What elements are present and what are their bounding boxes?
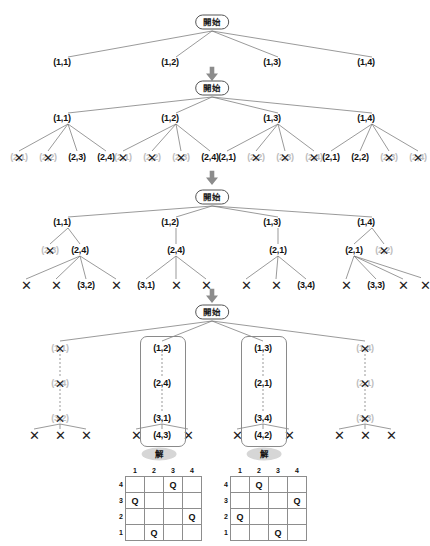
board-right-cell-r4c1 (231, 477, 250, 493)
board-left-cell-r2c2 (145, 509, 164, 525)
board-right-col-header-4: 4 (288, 464, 307, 477)
board-left-row: 1Q (113, 525, 202, 541)
board-left-cell-r1c1 (126, 525, 145, 541)
board-left-col-header-2: 2 (145, 464, 164, 477)
stage4-branch3-leaf-dead-2: ✕ (386, 429, 397, 442)
stage2-level2-node-2-0: (2,1) (218, 153, 236, 162)
stage3-leaf-dead-2-0: ✕ (241, 279, 252, 292)
stage3-leaf-node-3-1: (3,3) (367, 281, 385, 290)
board-left-caption: 解 (142, 448, 177, 461)
board-left-row-header-1: 1 (113, 525, 126, 541)
board-right-col-header-1: 1 (231, 464, 250, 477)
stage3-leaf-dead-1-1: ✕ (171, 279, 182, 292)
stage3-level1-node-0: (1,1) (53, 218, 71, 227)
stage2-level2-node-1-2-pruned: (2,3)✕ (172, 153, 190, 162)
stage3-leaf-dead-0-1: ✕ (51, 279, 62, 292)
board-left-corner (113, 464, 126, 477)
board-right-row: 3Q (218, 493, 307, 509)
stage1-level1-node-0: (1,1) (53, 58, 71, 67)
stage4-branch0-leaf-dead-1: ✕ (55, 429, 66, 442)
board-right-col-header-3: 3 (269, 464, 288, 477)
board-left-row: 3Q (113, 493, 202, 509)
stage3-leaf-node-0-2: (3,2) (77, 281, 95, 290)
board-right-queen-cell-r4c2: Q (250, 477, 269, 493)
stage4-branch0-chain-node-1-pruned: (2,4)✕ (51, 379, 69, 388)
stage2-level2-node-3-0: (2,1) (322, 153, 340, 162)
stage2-level1-node-3: (1,4) (357, 114, 375, 123)
stage3-leaf-dead-3-2: ✕ (398, 279, 409, 292)
start-node-3: 開始 (195, 190, 229, 205)
board-right-queen-cell-r2c1: Q (231, 509, 250, 525)
board-left-row: 4Q (113, 477, 202, 493)
stage3-leaf-node-1-0: (3,1) (137, 281, 155, 290)
stage4-branch3-leaf-dead-1: ✕ (360, 429, 371, 442)
board-left-row: 2Q (113, 509, 202, 525)
stage2-level2-node-3-1: (2,2) (351, 153, 369, 162)
stage3-leaf-dead-2-1: ✕ (271, 279, 282, 292)
stage2-level2-node-3-2-pruned: (2,3)✕ (380, 153, 398, 162)
board-right-queen-cell-r3c4: Q (288, 493, 307, 509)
stage3-level2-node-2-0: (2,1) (269, 246, 287, 255)
board-left: 12344Q3Q2Q1Q (113, 464, 202, 541)
stage2-level1-node-1: (1,2) (161, 114, 179, 123)
board-left-queen-cell-r4c3: Q (164, 477, 183, 493)
board-right-cell-r4c3 (269, 477, 288, 493)
board-right-row-header-4: 4 (218, 477, 231, 493)
stage2-level2-node-2-2-pruned: (2,3)✕ (276, 153, 294, 162)
board-left-col-header-1: 1 (126, 464, 145, 477)
board-right-col-header-2: 2 (250, 464, 269, 477)
stage1-level1-node-3: (1,4) (357, 58, 375, 67)
stage4-branch3-chain-node-2-pruned: (3,3)✕ (356, 414, 374, 423)
board-right-cell-r3c1 (231, 493, 250, 509)
board-left-cell-r4c4 (183, 477, 202, 493)
board-right-row-header-2: 2 (218, 509, 231, 525)
board-left-queen-cell-r3c1: Q (126, 493, 145, 509)
stage3-level1-node-2: (1,3) (263, 218, 281, 227)
stage4-branch3-chain-node-1-pruned: (2,1)✕ (356, 379, 374, 388)
stage3-level2-node-0-1: (2,4) (71, 246, 89, 255)
board-right-row-header-3: 3 (218, 493, 231, 509)
stage2-level2-node-2-1-pruned: (2,2)✕ (247, 153, 265, 162)
board-right-corner (218, 464, 231, 477)
stage2-level2-node-1-3: (2,4) (201, 153, 219, 162)
stage2-level2-node-0-0-pruned: (2,1)✕ (10, 153, 28, 162)
stage3-level2-node-3-1-pruned: (2,2)✕ (375, 246, 393, 255)
board-right-cell-r1c1 (231, 525, 250, 541)
stage2-level2-node-1-0-pruned: (2,1)✕ (114, 153, 132, 162)
stage2-level2-node-2-3-pruned: (2,4)✕ (305, 153, 323, 162)
stage-transition-arrow-2 (206, 171, 219, 190)
board-left-cell-r4c2 (145, 477, 164, 493)
board-right-cell-r4c4 (288, 477, 307, 493)
stage4-branch0-chain-node-0-pruned: (1,1)✕ (51, 344, 69, 353)
stage2-level2-node-0-1-pruned: (2,2)✕ (39, 153, 57, 162)
board-left-cell-r2c3 (164, 509, 183, 525)
board-left-cell-r1c3 (164, 525, 183, 541)
board-right-row: 2Q (218, 509, 307, 525)
stage2-level2-node-1-1-pruned: (2,2)✕ (143, 153, 161, 162)
board-right-cell-r2c3 (269, 509, 288, 525)
board-right-cell-r1c2 (250, 525, 269, 541)
stage4-branch0-leaf-dead-0: ✕ (29, 429, 40, 442)
board-right: 12344Q3Q2Q1Q (218, 464, 307, 541)
start-node-2: 開始 (195, 81, 229, 96)
stage3-level1-node-1: (1,2) (161, 218, 179, 227)
stage4-branch3-chain-node-0-pruned: (1,4)✕ (356, 344, 374, 353)
start-node-4: 開始 (195, 305, 229, 320)
stage3-leaf-dead-0-3: ✕ (111, 279, 122, 292)
stage1-level1-node-1: (1,2) (161, 58, 179, 67)
board-left-col-header-3: 3 (164, 464, 183, 477)
stage3-leaf-dead-3-0: ✕ (341, 279, 352, 292)
board-left-row-header-2: 2 (113, 509, 126, 525)
board-right-cell-r2c2 (250, 509, 269, 525)
stage4-branch3-leaf-dead-0: ✕ (334, 429, 345, 442)
board-left-cell-r3c2 (145, 493, 164, 509)
stage3-level2-node-1-0: (2,4) (167, 246, 185, 255)
stage2-level1-node-0: (1,1) (53, 114, 71, 123)
solution-path-highlight-2 (241, 336, 287, 447)
stage3-leaf-dead-0-0: ✕ (21, 279, 32, 292)
board-left-row-header-4: 4 (113, 477, 126, 493)
board-left-row-header-3: 3 (113, 493, 126, 509)
solution-path-highlight-1 (140, 336, 186, 447)
stage3-level2-node-3-0: (2,1) (345, 246, 363, 255)
